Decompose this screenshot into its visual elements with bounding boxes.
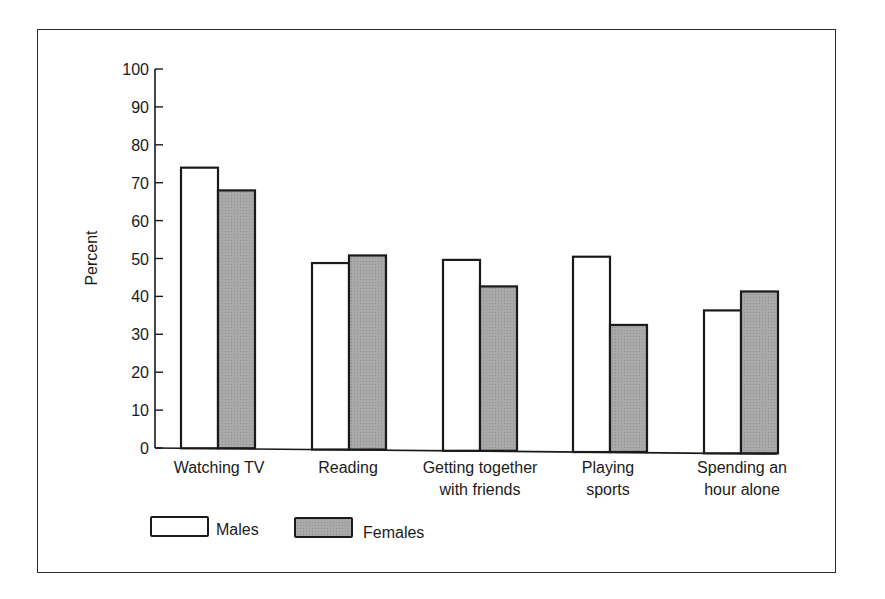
x-category-label: sports bbox=[586, 481, 630, 498]
y-tick-label: 30 bbox=[131, 326, 149, 343]
bar-females bbox=[741, 291, 778, 453]
y-axis-label: Percent bbox=[83, 230, 100, 286]
x-category-label: Reading bbox=[318, 459, 378, 476]
bar-males bbox=[573, 257, 610, 452]
bar-females bbox=[218, 190, 255, 448]
bar-group: Reading bbox=[312, 255, 386, 476]
bar-males bbox=[312, 263, 349, 449]
x-category-label: Playing bbox=[582, 459, 634, 476]
y-tick-label: 90 bbox=[131, 99, 149, 116]
bar-males bbox=[443, 260, 480, 451]
bar-females bbox=[349, 255, 386, 449]
x-category-label: hour alone bbox=[704, 481, 780, 498]
bar-females bbox=[480, 286, 517, 450]
y-tick-label: 80 bbox=[131, 137, 149, 154]
legend-label-males: Males bbox=[216, 521, 259, 538]
bar-chart: 0102030405060708090100PercentWatching TV… bbox=[0, 0, 885, 599]
bar-males bbox=[181, 168, 218, 449]
y-tick-label: 50 bbox=[131, 251, 149, 268]
x-category-label: Getting together bbox=[423, 459, 538, 476]
y-tick-label: 0 bbox=[140, 440, 149, 457]
x-category-label: with friends bbox=[439, 481, 521, 498]
bar-females bbox=[610, 325, 647, 452]
y-tick-label: 10 bbox=[131, 402, 149, 419]
x-category-label: Watching TV bbox=[174, 459, 265, 476]
y-tick-label: 70 bbox=[131, 175, 149, 192]
bar-males bbox=[704, 310, 741, 453]
y-tick-label: 60 bbox=[131, 213, 149, 230]
x-category-label: Spending an bbox=[697, 459, 787, 476]
legend-label-females: Females bbox=[363, 524, 424, 541]
bar-group: Getting togetherwith friends bbox=[423, 260, 538, 498]
legend-swatch-males bbox=[151, 517, 208, 536]
legend: MalesFemales bbox=[151, 517, 424, 541]
bar-group: Watching TV bbox=[174, 168, 265, 476]
bar-group: Spending anhour alone bbox=[697, 291, 787, 498]
legend-swatch-females bbox=[295, 518, 352, 537]
bar-group: Playingsports bbox=[573, 257, 647, 498]
y-tick-label: 40 bbox=[131, 288, 149, 305]
y-tick-label: 100 bbox=[122, 61, 149, 78]
y-tick-label: 20 bbox=[131, 364, 149, 381]
